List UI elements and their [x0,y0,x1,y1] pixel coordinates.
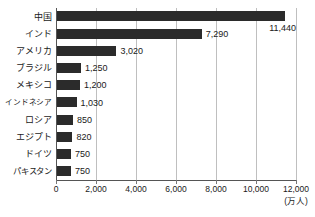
category-label: 中国 [0,12,52,22]
category-label: ドイツ [0,149,52,159]
category-label: ロシア [0,115,52,125]
x-tickmark [136,180,137,184]
gridline [296,8,297,180]
value-label: 11,440 [256,23,296,33]
bar [56,11,285,21]
x-tick-label: 10,000 [243,184,269,194]
x-tickmark [96,180,97,184]
bar-row [56,146,296,163]
value-label: 7,290 [206,29,229,39]
x-tickmark [296,180,297,184]
value-label: 1,030 [81,98,104,108]
bar-row [56,42,296,59]
bar [56,29,202,39]
bar [56,97,77,107]
category-label: メキシコ [0,80,52,90]
bar [56,149,71,159]
x-tickmark [256,180,257,184]
x-tick-label: 6,000 [165,184,186,194]
category-label: エジプト [0,132,52,142]
bar-row [56,128,296,145]
x-tickmark [176,180,177,184]
x-tickmark [216,180,217,184]
bar [56,46,116,56]
value-label: 1,200 [84,80,107,90]
bar [56,166,71,176]
bar [56,80,80,90]
x-tick-label: 12,000 [283,184,309,194]
y-axis-line [56,8,57,180]
x-tick-label: 0 [54,184,59,194]
value-label: 750 [75,149,90,159]
value-label: 820 [76,132,91,142]
plot-area [56,8,296,180]
category-label: インド [0,29,52,39]
category-label: ブラジル [0,63,52,73]
x-axis-unit-label: (万人) [284,196,308,206]
category-label: パキスタン [0,166,52,176]
value-label: 750 [75,166,90,176]
bar [56,63,81,73]
value-label: 3,020 [120,46,143,56]
bar [56,115,73,125]
x-tick-label: 4,000 [125,184,146,194]
x-tick-label: 8,000 [205,184,226,194]
category-label: アメリカ [0,46,52,56]
x-tick-label: 2,000 [85,184,106,194]
bar-chart: 中国インドアメリカブラジルメキシコインドネシアロシアエジプトドイツパキスタン 1… [0,0,315,217]
value-label: 1,250 [85,63,108,73]
x-tickmark [56,180,57,184]
bar-row [56,163,296,180]
category-label: インドネシア [0,98,52,108]
bar [56,132,72,142]
value-label: 850 [77,115,92,125]
